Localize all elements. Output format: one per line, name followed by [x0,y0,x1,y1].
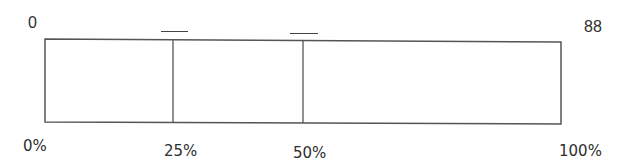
top-label-end: 88 [584,19,602,35]
percent-label-25: 25% [164,144,197,159]
bar-model-svg [0,0,626,167]
percent-label-0: 0% [23,139,47,154]
percent-label-50: 50% [293,146,326,161]
percent-label-100: 100% [559,144,602,159]
percent-bar-diagram: 0 88 0% 25% 50% 100% [0,0,626,167]
top-label-start: 0 [28,15,37,31]
answer-blank-50-percent[interactable] [290,33,318,34]
answer-blank-25-percent[interactable] [161,31,188,32]
